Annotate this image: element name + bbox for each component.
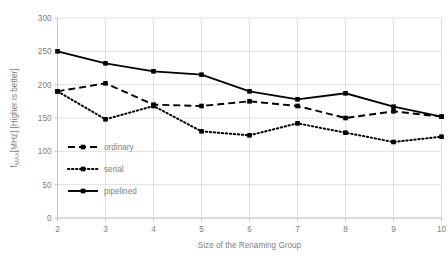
data-point-pipelined-5 — [199, 72, 204, 77]
data-point-ordinary-3 — [103, 81, 108, 86]
data-point-pipelined-7 — [295, 97, 300, 102]
data-point-serial-7 — [295, 121, 300, 126]
data-point-ordinary-7 — [295, 104, 300, 109]
legend-label-pipelined: pipelined — [104, 187, 137, 196]
data-point-pipelined-8 — [343, 91, 348, 96]
y-axis-tick-label: 250 — [38, 47, 52, 56]
legend-marker-pipelined — [81, 189, 86, 194]
x-axis-tick-label: 10 — [437, 225, 447, 234]
data-point-serial-3 — [103, 117, 108, 122]
line-chart: 050100150200250300 2345678910 ordinaryse… — [0, 0, 448, 268]
data-point-pipelined-6 — [247, 89, 252, 94]
x-axis-tick-labels: 2345678910 — [55, 225, 446, 234]
x-axis-tick-label: 9 — [391, 225, 396, 234]
x-axis-tick-label: 5 — [199, 225, 204, 234]
x-axis-tick-label: 8 — [343, 225, 348, 234]
legend-marker-ordinary — [81, 145, 86, 150]
x-axis-tick-label: 4 — [151, 225, 156, 234]
legend-label-serial: serial — [104, 165, 124, 174]
data-point-serial-6 — [247, 133, 252, 138]
y-axis-tick-label: 200 — [38, 81, 52, 90]
legend-item-serial: serial — [68, 165, 124, 174]
y-axis-tick-labels: 050100150200250300 — [38, 14, 52, 223]
x-axis-title: Size of the Renaming Group — [198, 241, 302, 250]
legend-label-ordinary: ordinary — [104, 143, 134, 152]
data-point-ordinary-8 — [343, 116, 348, 121]
axis-titles: Size of the Renaming GroupfMAX[MHz] [Hig… — [10, 68, 302, 250]
data-point-serial-9 — [391, 140, 396, 145]
data-point-serial-4 — [151, 104, 156, 109]
legend-item-ordinary: ordinary — [68, 143, 134, 152]
data-point-pipelined-4 — [151, 69, 156, 74]
data-point-ordinary-9 — [391, 109, 396, 114]
data-point-pipelined-9 — [391, 104, 396, 109]
data-point-pipelined-3 — [103, 61, 108, 66]
x-axis-tick-label: 6 — [247, 225, 252, 234]
data-point-serial-5 — [199, 129, 204, 134]
x-axis-tick-label: 7 — [295, 225, 300, 234]
y-axis-tick-label: 100 — [38, 147, 52, 156]
data-point-pipelined-10 — [439, 114, 444, 119]
y-axis-tick-label: 0 — [47, 214, 52, 223]
x-axis-tick-label: 2 — [55, 225, 60, 234]
y-axis-tick-label: 50 — [42, 181, 52, 190]
data-point-ordinary-5 — [199, 104, 204, 109]
data-point-serial-8 — [343, 130, 348, 135]
legend-marker-serial — [81, 167, 86, 172]
legend-item-pipelined: pipelined — [68, 187, 137, 196]
x-axis-tick-label: 3 — [103, 225, 108, 234]
y-axis-title: fMAX[MHz] [Higher is better] — [10, 68, 20, 167]
chart-container: 050100150200250300 2345678910 ordinaryse… — [0, 0, 448, 268]
y-axis-tick-label: 300 — [38, 14, 52, 23]
data-point-ordinary-6 — [247, 99, 252, 104]
y-axis-tick-label: 150 — [38, 114, 52, 123]
data-point-serial-2 — [55, 89, 60, 94]
data-point-pipelined-2 — [55, 49, 60, 54]
data-point-serial-10 — [439, 134, 444, 139]
